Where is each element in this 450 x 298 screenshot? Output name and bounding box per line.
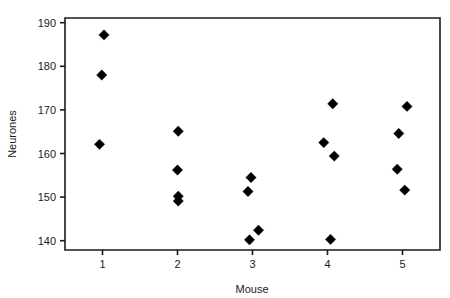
data-point-marker [400,185,410,195]
data-point-marker [328,99,338,109]
y-tick-label: 180 [38,60,56,72]
x-tick-label: 2 [174,258,180,270]
scatter-plot-figure: 12345 140150160170180190 Mouse Neurones [0,0,450,298]
x-axis-ticks: 12345 [99,250,405,270]
y-tick-label: 150 [38,191,56,203]
data-point-marker [394,128,404,138]
data-point-marker [253,225,263,235]
y-tick-label: 140 [38,235,56,247]
data-point-marker [172,165,182,175]
y-tick-label: 160 [38,148,56,160]
data-point-marker [173,126,183,136]
data-point-marker [325,234,335,244]
y-axis-title: Neurones [6,110,18,158]
data-point-marker [246,172,256,182]
data-markers [94,30,412,245]
x-tick-label: 5 [399,258,405,270]
data-point-marker [244,235,254,245]
data-point-marker [329,151,339,161]
y-tick-label: 170 [38,104,56,116]
data-point-marker [97,70,107,80]
x-axis-title: Mouse [235,283,268,295]
data-point-marker [94,139,104,149]
data-point-marker [99,30,109,40]
data-point-marker [243,186,253,196]
data-point-marker [392,164,402,174]
y-axis-ticks: 140150160170180190 [38,17,65,247]
x-tick-label: 3 [249,258,255,270]
x-tick-label: 4 [324,258,330,270]
data-point-marker [402,101,412,111]
x-tick-label: 1 [99,258,105,270]
y-tick-label: 190 [38,17,56,29]
plot-frame [65,18,440,250]
plot-canvas: 12345 140150160170180190 Mouse Neurones [0,0,450,298]
data-point-marker [319,137,329,147]
